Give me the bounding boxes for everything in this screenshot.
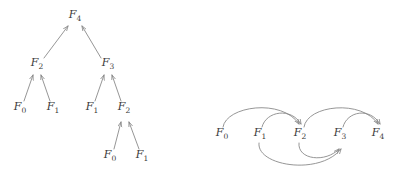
tree-node-f1-left: F1 — [46, 100, 59, 115]
dag-node-f4-sub: 4 — [379, 132, 384, 141]
svg-text:F0: F0 — [13, 100, 27, 115]
dag-node-f2: F2 — [293, 126, 307, 141]
svg-text:F1: F1 — [135, 148, 148, 163]
dag-edges-below — [259, 143, 341, 165]
dag-node-f1: F1 — [253, 126, 266, 141]
tree-edge-f3-to-f4 — [82, 26, 101, 58]
tree-node-f1-bottom: F1 — [135, 148, 148, 163]
tree-node-f3-sub: 3 — [109, 62, 114, 71]
svg-text:F3: F3 — [333, 126, 347, 141]
tree-nodes: F4 F2 F3 F0 F1 F1 F2 — [13, 8, 148, 163]
svg-text:F1: F1 — [253, 126, 266, 141]
dag-node-f0: F0 — [215, 126, 229, 141]
svg-text:F1: F1 — [85, 100, 98, 115]
figure-canvas: F4 F2 F3 F0 F1 F1 F2 — [0, 0, 406, 177]
svg-text:F1: F1 — [46, 100, 59, 115]
dag-node-f1-sub: 1 — [261, 132, 266, 141]
svg-text:F2: F2 — [117, 100, 131, 115]
tree-node-f3: F3 — [101, 56, 115, 71]
tree-edge-f1c-to-f2b — [129, 122, 139, 149]
tree-edge-f2b-to-f3 — [112, 75, 121, 101]
recursion-tree-panel: F4 F2 F3 F0 F1 F1 F2 — [13, 8, 148, 163]
dag-edges-above — [223, 108, 380, 127]
dag-edge-f2-to-f4 — [304, 108, 378, 127]
svg-text:F2: F2 — [293, 126, 307, 141]
tree-edge-f0a-to-f2 — [24, 75, 33, 101]
dag-node-f3: F3 — [333, 126, 347, 141]
svg-text:F0: F0 — [103, 148, 117, 163]
tree-node-f2: F2 — [30, 56, 44, 71]
tree-edge-f0c-to-f2b — [114, 122, 121, 149]
svg-text:F0: F0 — [215, 126, 229, 141]
tree-edge-f1a-to-f2 — [41, 75, 50, 101]
tree-node-f2-right: F2 — [117, 100, 131, 115]
tree-node-f0-bottom-sub: 0 — [111, 154, 116, 163]
tree-node-f4-sub: 4 — [76, 14, 81, 23]
tree-edges — [24, 26, 139, 149]
tree-node-f1-mid: F1 — [85, 100, 98, 115]
dag-edge-f1-to-f3 — [259, 143, 341, 165]
tree-edge-f1b-to-f3 — [95, 75, 104, 101]
tree-node-f2-right-sub: 2 — [125, 106, 130, 115]
fibonacci-diagrams: F4 F2 F3 F0 F1 F1 F2 — [0, 0, 406, 177]
tree-node-f1-bottom-sub: 1 — [143, 154, 148, 163]
svg-text:F3: F3 — [101, 56, 115, 71]
svg-text:F2: F2 — [30, 56, 44, 71]
tree-edge-f2-to-f4 — [44, 26, 68, 58]
tree-node-f2-sub: 2 — [38, 62, 43, 71]
tree-node-f0-bottom: F0 — [103, 148, 117, 163]
tree-node-f0-left-sub: 0 — [21, 106, 26, 115]
dag-edge-f1-to-f2 — [262, 113, 301, 127]
dependency-dag-panel: F0 F1 F2 F3 F4 — [215, 108, 385, 166]
tree-node-f1-mid-sub: 1 — [93, 106, 98, 115]
dag-edge-f0-to-f2 — [223, 108, 299, 127]
dag-node-f0-sub: 0 — [223, 132, 228, 141]
tree-node-f1-left-sub: 1 — [54, 106, 59, 115]
dag-node-f3-sub: 3 — [341, 132, 346, 141]
svg-text:F4: F4 — [371, 126, 385, 141]
svg-text:F4: F4 — [68, 8, 82, 23]
dag-node-f2-sub: 2 — [301, 132, 306, 141]
tree-node-f4: F4 — [68, 8, 82, 23]
dag-nodes: F0 F1 F2 F3 F4 — [215, 126, 385, 141]
dag-edge-f2-to-f3 — [299, 143, 339, 158]
dag-node-f4: F4 — [371, 126, 385, 141]
tree-node-f0-left: F0 — [13, 100, 27, 115]
